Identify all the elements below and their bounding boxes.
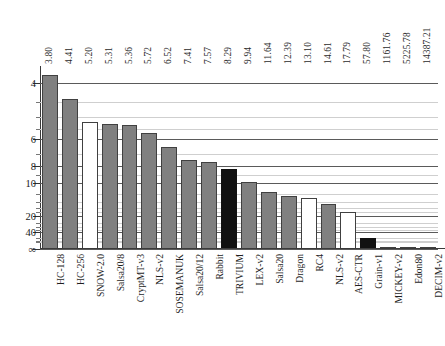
value-label: 8.29 [223,0,233,64]
category-label: Grain-v1 [373,254,384,346]
y-tick-label: 8 [0,161,36,172]
value-label: 1161.76 [382,0,392,64]
category-label: MICKEY-v2 [393,254,404,346]
bar-nls-v2[interactable] [321,204,337,249]
bar-lex-v2[interactable] [241,182,257,249]
category-label: AES-CTR [353,254,364,346]
bar-salsa20-8[interactable] [102,124,118,249]
category-label: Dragon [294,254,305,346]
y-tick-label: 6 [0,133,36,144]
category-label: Salsa20 [274,254,285,346]
category-label: Salsa20/8 [115,254,126,346]
category-label: HC-256 [75,254,86,346]
bar-snow-2-0[interactable] [82,122,98,249]
bar-chart: 3.804.415.205.315.365.726.527.417.578.29… [0,0,445,346]
value-label: 3.80 [44,0,54,64]
value-label: 57.80 [362,0,372,64]
category-label: Rabbit [214,254,225,346]
value-label: 4.41 [64,0,74,64]
category-label: DECIM-v2 [433,254,444,346]
y-tick-label: 20 [0,210,36,221]
value-label: 14.61 [323,0,333,64]
y-tick-label: 40 [0,227,36,238]
bar-salsa20[interactable] [261,192,277,249]
category-label: NLS-v2 [154,254,165,346]
category-label: LEX-v2 [254,254,265,346]
bar-dragon[interactable] [281,196,297,249]
plot-area [40,66,438,249]
value-label: 6.52 [163,0,173,64]
category-label: HC-128 [55,254,66,346]
bar-hc-256[interactable] [62,99,78,249]
value-label: 5.20 [84,0,94,64]
bar-rabbit[interactable] [201,162,217,250]
value-label: 5225.78 [402,0,412,64]
y-tick-label: 4 [0,78,36,89]
category-label-row: HC-128HC-256SNOW-2.0Salsa20/8CryptMT-v3N… [0,252,445,346]
value-label: 13.10 [303,0,313,64]
value-label: 5.31 [104,0,114,64]
y-axis-labels: 468102040∞ [0,66,36,249]
category-label: TRIVIUM [234,254,245,346]
category-label: NLS-v2 [334,254,345,346]
category-label: Salsa20/12 [194,254,205,346]
category-label: SOSEMANUK [174,254,185,346]
bar-rc4[interactable] [301,198,317,249]
gridline-major [40,249,438,250]
value-label: 5.72 [143,0,153,64]
bar-aes-ctr[interactable] [340,212,356,249]
bar-cryptmt-v3[interactable] [122,125,138,249]
bar-nls-v2[interactable] [141,133,157,249]
value-label: 7.57 [203,0,213,64]
x-axis-baseline [40,248,445,249]
value-label: 11.64 [263,0,273,64]
category-label: SNOW-2.0 [95,254,106,346]
value-label: 7.41 [183,0,193,64]
bar-hc-128[interactable] [42,75,58,249]
value-label-row: 3.804.415.205.315.365.726.527.417.578.29… [0,0,445,66]
bar-salsa20-12[interactable] [181,160,197,249]
bar-trivium[interactable] [221,169,237,249]
category-label: CryptMT-v3 [135,254,146,346]
value-label: 17.79 [342,0,352,64]
value-label: 9.94 [243,0,253,64]
value-label: 5.36 [124,0,134,64]
bar-sosemanuk[interactable] [161,147,177,249]
bars-layer [40,66,438,249]
value-label: 14387.21 [422,0,432,64]
y-tick-label: 10 [0,177,36,188]
value-label: 12.39 [283,0,293,64]
category-label: RC4 [314,254,325,346]
category-label: Edon80 [413,254,424,346]
